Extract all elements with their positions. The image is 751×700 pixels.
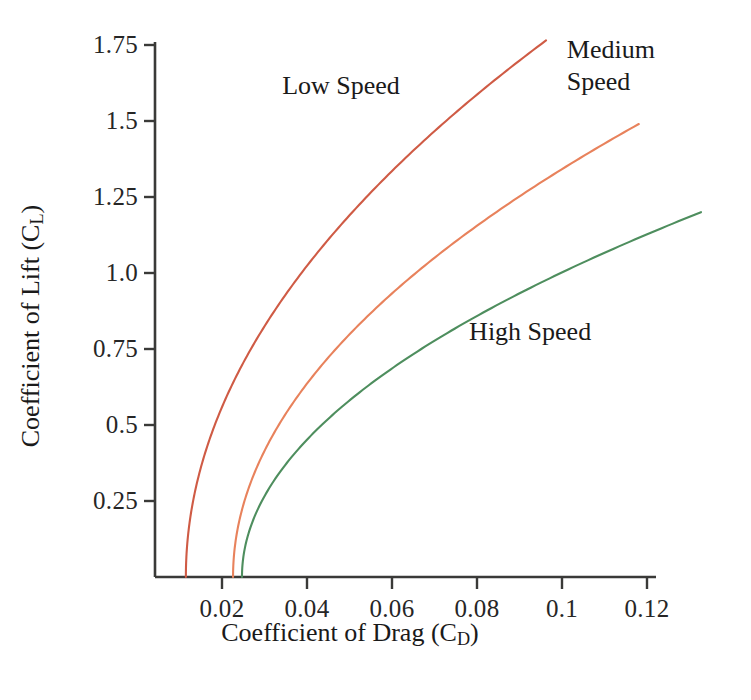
series-label-high-speed: High Speed bbox=[469, 316, 591, 348]
y-tick-label-4: 1.25 bbox=[40, 183, 138, 211]
y-axis-title-close: ) bbox=[16, 205, 45, 214]
y-tick-label-1: 0.5 bbox=[40, 411, 138, 439]
y-tick-label-5: 1.5 bbox=[40, 107, 138, 135]
series-label-high-speed-text: High Speed bbox=[469, 317, 591, 346]
series-label-low-speed: Low Speed bbox=[282, 70, 400, 102]
drag-polar-chart: 0.250.50.751.01.251.51.75 0.020.040.060.… bbox=[0, 0, 751, 700]
series-label-low-speed-text: Low Speed bbox=[282, 71, 400, 100]
y-axis-title-subscript: L bbox=[27, 213, 47, 224]
x-axis-title-text: Coefficient of Drag (C bbox=[221, 618, 457, 647]
y-axis-title-text: Coefficient of Lift (C bbox=[16, 225, 45, 448]
y-tick-label-2: 0.75 bbox=[40, 335, 138, 363]
x-axis-title-subscript: D bbox=[457, 629, 470, 649]
series-label-medium-speed-line2: Speed bbox=[567, 66, 655, 98]
y-tick-label-6: 1.75 bbox=[40, 31, 138, 59]
series-label-medium-speed: Medium Speed bbox=[567, 35, 655, 98]
x-axis-title-close: ) bbox=[470, 618, 479, 647]
series-curve-high-speed bbox=[242, 212, 701, 577]
axis-lines bbox=[155, 42, 656, 577]
x-axis-title: Coefficient of Drag (CD) bbox=[0, 618, 700, 650]
y-axis-title: Coefficient of Lift (CL) bbox=[16, 176, 48, 476]
series-label-medium-speed-line1: Medium bbox=[567, 35, 655, 67]
series-curves bbox=[186, 40, 701, 577]
y-tick-label-0: 0.25 bbox=[40, 487, 138, 515]
y-tick-label-3: 1.0 bbox=[40, 259, 138, 287]
series-curve-medium-speed bbox=[233, 124, 639, 577]
